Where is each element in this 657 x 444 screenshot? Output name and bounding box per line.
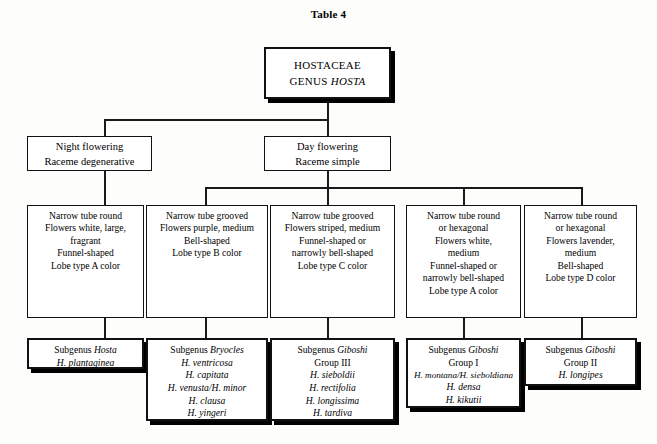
connector-to-d4 bbox=[463, 187, 465, 205]
s5-label: Subgenus bbox=[545, 344, 585, 355]
root-line-2: GENUS HOSTA bbox=[269, 74, 386, 90]
node-subgenus-giboshi-group-1[interactable]: Subgenus Giboshi Group I H. montana/H. s… bbox=[406, 338, 521, 408]
d3-line-5: Lobe type C color bbox=[274, 260, 391, 272]
day-line-2: Raceme simple bbox=[268, 154, 387, 169]
connector-to-d2 bbox=[205, 187, 207, 205]
d2-line-4: Lobe type B color bbox=[150, 247, 264, 259]
s2-species-0: H. ventricosa bbox=[151, 357, 263, 370]
node-desc-narrow-tube-grooved-purple[interactable]: Narrow tube grooved Flowers purple, medi… bbox=[146, 205, 268, 318]
s4-label: Subgenus bbox=[428, 344, 468, 355]
connector-d2-to-s2 bbox=[205, 318, 207, 338]
d2-line-3: Bell-shaped bbox=[150, 235, 264, 247]
d5-line-4: medium bbox=[528, 247, 633, 259]
d1-line-5: Lobe type A color bbox=[31, 260, 140, 272]
connector-root-bus bbox=[104, 119, 329, 121]
s2-heading: Subgenus Bryocles bbox=[151, 344, 263, 357]
s3-species-1: H. rectifolia bbox=[275, 382, 390, 395]
connector-night-to-d1 bbox=[104, 171, 106, 205]
d5-line-2: or hexagonal bbox=[528, 222, 633, 234]
d1-line-3: fragrant bbox=[31, 235, 140, 247]
s1-heading: Subgenus Hosta bbox=[32, 344, 139, 357]
node-desc-narrow-tube-hexagonal-white[interactable]: Narrow tube round or hexagonal Flowers w… bbox=[406, 205, 521, 318]
day-line-1: Day flowering bbox=[268, 139, 387, 154]
d3-line-2: Flowers striped, medium bbox=[274, 222, 391, 234]
connector-d1-to-s1 bbox=[104, 318, 106, 338]
night-line-1: Night flowering bbox=[31, 139, 148, 154]
connector-d4-to-s4 bbox=[463, 318, 465, 338]
node-day-flowering[interactable]: Day flowering Raceme simple bbox=[264, 136, 391, 171]
d3-line-1: Narrow tube grooved bbox=[274, 210, 391, 222]
s4-species-1: H. densa bbox=[411, 381, 516, 394]
node-subgenus-giboshi-group-2[interactable]: Subgenus Giboshi Group II H. longipes bbox=[524, 338, 637, 386]
s3-group: Group III bbox=[275, 357, 390, 370]
s5-species-0: H. longipes bbox=[529, 369, 632, 382]
s2-species-3: H. clausa bbox=[151, 395, 263, 408]
s3-label: Subgenus bbox=[297, 344, 337, 355]
s3-heading: Subgenus Giboshi bbox=[275, 344, 390, 357]
s4-heading: Subgenus Giboshi bbox=[411, 344, 516, 357]
classification-chart-page: Table 4 HOSTACEAE GENUS HOSTA Night flow… bbox=[0, 0, 657, 444]
s3-species-0: H. sieboldii bbox=[275, 369, 390, 382]
s3-species-3: H. tardiva bbox=[275, 407, 390, 420]
connector-to-night bbox=[104, 119, 106, 136]
d4-line-7: Lobe type A color bbox=[410, 285, 517, 297]
d3-line-3: Funnel-shaped or bbox=[274, 235, 391, 247]
s1-species-0: H. plantaginea bbox=[32, 357, 139, 370]
node-subgenus-giboshi-group-3[interactable]: Subgenus Giboshi Group III H. sieboldii … bbox=[270, 338, 395, 421]
d4-line-1: Narrow tube round bbox=[410, 210, 517, 222]
s2-name: Bryocles bbox=[210, 344, 244, 355]
d4-line-4: medium bbox=[410, 247, 517, 259]
s2-species-1: H. capitata bbox=[151, 369, 263, 382]
node-night-flowering[interactable]: Night flowering Raceme degenerative bbox=[27, 136, 152, 171]
connector-d5-to-s5 bbox=[581, 318, 583, 338]
s2-label: Subgenus bbox=[170, 344, 210, 355]
root-line-1: HOSTACEAE bbox=[269, 58, 386, 74]
connector-to-d5 bbox=[581, 187, 583, 205]
s4-species-0: H. montana/H. sieboldiana bbox=[411, 369, 516, 381]
node-subgenus-hosta[interactable]: Subgenus Hosta H. plantaginea bbox=[27, 338, 144, 369]
s4-name: Giboshi bbox=[468, 344, 498, 355]
connector-d3-to-s3 bbox=[327, 318, 329, 338]
d1-line-1: Narrow tube round bbox=[31, 210, 140, 222]
connector-day-stem bbox=[327, 171, 329, 187]
connector-to-day bbox=[327, 119, 329, 136]
s3-name: Giboshi bbox=[337, 344, 367, 355]
s3-species-2: H. longissima bbox=[275, 395, 390, 408]
d5-line-5: Bell-shaped bbox=[528, 260, 633, 272]
d3-line-4: narrowly bell-shaped bbox=[274, 247, 391, 259]
node-desc-narrow-tube-hexagonal-lavender[interactable]: Narrow tube round or hexagonal Flowers l… bbox=[524, 205, 637, 318]
node-subgenus-bryocles[interactable]: Subgenus Bryocles H. ventricosa H. capit… bbox=[146, 338, 268, 421]
d4-line-2: or hexagonal bbox=[410, 222, 517, 234]
d5-line-6: Lobe type D color bbox=[528, 272, 633, 284]
d2-line-2: Flowers purple, medium bbox=[150, 222, 264, 234]
s1-label: Subgenus bbox=[54, 344, 94, 355]
s2-species-4: H. yingeri bbox=[151, 407, 263, 420]
d4-line-3: Flowers white, bbox=[410, 235, 517, 247]
s5-heading: Subgenus Giboshi bbox=[529, 344, 632, 357]
d2-line-1: Narrow tube grooved bbox=[150, 210, 264, 222]
node-desc-narrow-tube-grooved-striped[interactable]: Narrow tube grooved Flowers striped, med… bbox=[270, 205, 395, 318]
node-desc-narrow-tube-round-white[interactable]: Narrow tube round Flowers white, large, … bbox=[27, 205, 144, 318]
night-line-2: Raceme degenerative bbox=[31, 154, 148, 169]
s1-name: Hosta bbox=[94, 344, 117, 355]
root-genus-prefix: GENUS bbox=[289, 75, 330, 87]
s2-species-2: H. venusta/H. minor bbox=[151, 382, 263, 395]
s4-species-2: H. kikutii bbox=[411, 394, 516, 407]
s4-group: Group I bbox=[411, 357, 516, 370]
d1-line-4: Funnel-shaped bbox=[31, 247, 140, 259]
d4-line-5: Funnel-shaped or bbox=[410, 260, 517, 272]
connector-root-stem bbox=[327, 99, 329, 119]
d4-line-6: narrowly bell-shaped bbox=[410, 272, 517, 284]
s5-group: Group II bbox=[529, 357, 632, 370]
table-caption: Table 4 bbox=[0, 8, 657, 20]
node-root-hostaceae[interactable]: HOSTACEAE GENUS HOSTA bbox=[264, 47, 391, 99]
connector-day-bus bbox=[205, 187, 581, 189]
d1-line-2: Flowers white, large, bbox=[31, 222, 140, 234]
d5-line-3: Flowers lavender, bbox=[528, 235, 633, 247]
connector-to-d3 bbox=[327, 187, 329, 205]
d5-line-1: Narrow tube round bbox=[528, 210, 633, 222]
s5-name: Giboshi bbox=[585, 344, 615, 355]
root-genus-italic: HOSTA bbox=[331, 75, 366, 87]
